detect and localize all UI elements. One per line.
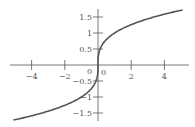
origin-label-y: 0 <box>87 67 92 76</box>
y-tick-label: 1.5 <box>79 13 92 22</box>
y-tick-label: −0.5 <box>73 77 92 86</box>
x-tick-label: 2 <box>129 72 134 81</box>
cube-root-chart: −4−224−1.5−1−0.50.511.500 <box>0 0 195 127</box>
tick-labels: −4−224−1.5−1−0.50.511.500 <box>26 13 167 118</box>
x-tick-label: 4 <box>162 72 167 81</box>
x-tick-label: −2 <box>59 72 71 81</box>
y-tick-label: 1 <box>87 29 92 38</box>
origin-label-x: 0 <box>101 68 106 77</box>
x-tick-label: −4 <box>26 72 38 81</box>
y-tick-label: 0.5 <box>79 45 92 54</box>
y-tick-label: −1.5 <box>73 109 92 118</box>
axes <box>10 9 189 121</box>
